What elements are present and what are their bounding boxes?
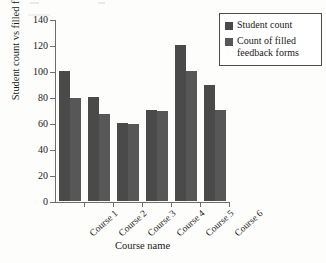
x-axis-tick-mark (142, 202, 143, 207)
bar (99, 114, 110, 201)
y-axis-tick-mark (50, 98, 55, 99)
bar (175, 45, 186, 201)
bar-group (204, 85, 226, 201)
y-axis-title: Student count vs filled feedback forms (8, 0, 24, 120)
x-axis-tick-mark (84, 202, 85, 207)
y-axis-tick-label: 140 (33, 13, 48, 26)
y-axis-tick-mark (50, 150, 55, 151)
x-axis-tick-mark (171, 202, 172, 207)
x-axis-tick-label: Course 4 (174, 208, 206, 238)
scan-artifact (98, 2, 105, 4)
y-axis-tick-label: 20 (38, 169, 48, 182)
y-axis-tick-label: 60 (38, 117, 48, 130)
x-axis-tick-mark (113, 202, 114, 207)
y-axis-line (55, 20, 56, 203)
bar (128, 124, 139, 201)
x-axis-tick-mark (200, 202, 201, 207)
legend-swatch-icon (225, 38, 233, 46)
y-axis-tick-mark (50, 176, 55, 177)
x-axis-tick-mark (229, 202, 230, 207)
bar-group (117, 123, 139, 201)
bar-chart-figure: Student count vs filled feedback forms 0… (0, 0, 326, 263)
legend-swatch-icon (225, 22, 233, 30)
y-axis-tick-label: 100 (33, 65, 48, 78)
y-axis-tick-mark (50, 124, 55, 125)
bar (204, 85, 215, 201)
bar (215, 110, 226, 201)
y-axis-tick-label: 80 (38, 91, 48, 104)
y-axis-tick-mark (50, 202, 55, 203)
y-axis-tick-mark (50, 20, 55, 21)
x-axis-tick-label: Course 5 (203, 208, 235, 238)
legend-label: Count of filled feedback forms (237, 35, 317, 59)
bar (70, 98, 81, 201)
bar (88, 97, 99, 201)
bar (186, 71, 197, 201)
legend: Student count Count of filled feedback f… (219, 13, 322, 66)
bar (146, 110, 157, 201)
y-axis-tick-mark (50, 46, 55, 47)
legend-label: Student count (237, 19, 292, 31)
x-axis-tick-label: Course 6 (232, 208, 264, 238)
scan-artifact (30, 2, 39, 4)
y-axis-tick-mark (50, 72, 55, 73)
y-axis-tick-label: 120 (33, 39, 48, 52)
plot-area: 020406080100120140 (55, 20, 229, 202)
bar (117, 123, 128, 201)
legend-item-filled-feedback-forms: Count of filled feedback forms (225, 35, 317, 59)
x-axis-tick-label: Course 3 (145, 208, 177, 238)
x-axis-tick-label: Course 1 (87, 208, 119, 238)
bar (59, 71, 70, 201)
bar-group (88, 97, 110, 201)
y-axis-tick-label: 0 (43, 195, 48, 208)
y-axis-tick-label: 40 (38, 143, 48, 156)
x-axis-title: Course name (55, 240, 230, 251)
legend-item-student-count: Student count (225, 19, 317, 31)
bar-group (59, 71, 81, 201)
bar (157, 111, 168, 201)
x-axis-tick-label: Course 2 (116, 208, 148, 238)
bar-group (146, 110, 168, 201)
bar-group (175, 45, 197, 201)
